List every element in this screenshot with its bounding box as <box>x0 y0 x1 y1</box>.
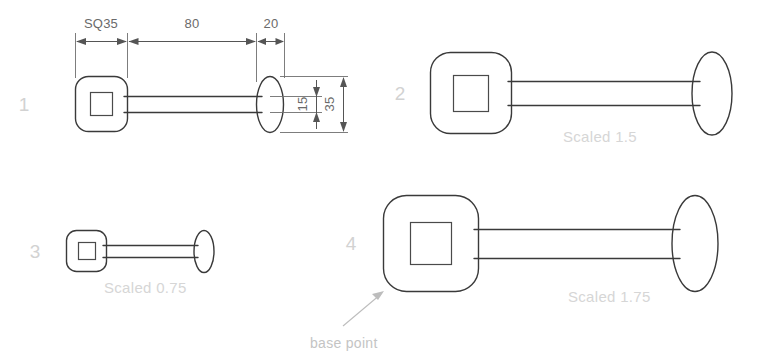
figure-4-head-outline <box>384 196 479 292</box>
figure-1-inner-square <box>91 93 113 116</box>
figure-1-number: 1 <box>19 94 30 115</box>
figure-3-caption: Scaled 0.75 <box>104 279 187 296</box>
dim-label-20: 20 <box>264 16 279 31</box>
dim-arrow-20-left <box>258 38 267 45</box>
dim-label-15: 15 <box>295 97 310 112</box>
dim-arrow-sq35-left <box>76 38 86 45</box>
horizontal-dimensions-group: SQ35 80 20 <box>76 16 285 82</box>
technical-drawing-svg: 1 SQ35 80 20 <box>0 0 773 360</box>
figure-4-inner-square <box>411 223 452 265</box>
figure-4-group: 4 Scaled 1.75 <box>346 196 718 306</box>
figure-3-end-cap-oval <box>194 231 214 273</box>
figure-2-end-cap-oval <box>692 52 732 135</box>
dim-label-sq35: SQ35 <box>84 16 118 31</box>
dim-label-35: 35 <box>322 97 337 112</box>
figure-2-number: 2 <box>395 83 406 104</box>
figure-3-head-outline <box>67 231 107 272</box>
dim-label-80: 80 <box>185 16 200 31</box>
figure-2-head-outline <box>431 53 512 134</box>
dim-arrow-80-right <box>246 38 256 45</box>
figure-2-caption: Scaled 1.5 <box>563 128 637 145</box>
dim-arrow-35-top <box>340 77 347 87</box>
figure-1-head-outline <box>76 77 128 132</box>
figure-3-number: 3 <box>30 241 41 262</box>
dim-arrow-80-left <box>129 38 139 45</box>
figure-2-group: 2 Scaled 1.5 <box>395 52 732 145</box>
figure-1-group: 1 <box>19 77 284 133</box>
figure-1-end-cap-oval <box>257 77 284 133</box>
dim-arrow-sq35-right <box>117 38 127 45</box>
base-point-leader-line <box>343 294 381 326</box>
figure-3-inner-square <box>79 243 96 260</box>
base-point-label: base point <box>310 335 378 351</box>
base-point-arrowhead <box>372 291 384 300</box>
base-point-annotation-group: base point <box>310 291 384 351</box>
dim-arrow-20-right <box>276 38 285 45</box>
figure-3-group: 3 Scaled 0.75 <box>30 231 214 297</box>
dim-arrow-15-bottom <box>313 112 320 122</box>
figure-4-caption: Scaled 1.75 <box>568 288 651 305</box>
vertical-dimensions-group: 15 35 <box>270 77 348 133</box>
dim-arrow-15-top <box>313 87 320 97</box>
figure-4-end-cap-oval <box>672 196 718 292</box>
figure-2-inner-square <box>454 76 489 112</box>
figure-4-number: 4 <box>346 233 357 254</box>
drawing-canvas: 1 SQ35 80 20 <box>0 0 773 360</box>
dim-arrow-35-bottom <box>340 122 347 132</box>
